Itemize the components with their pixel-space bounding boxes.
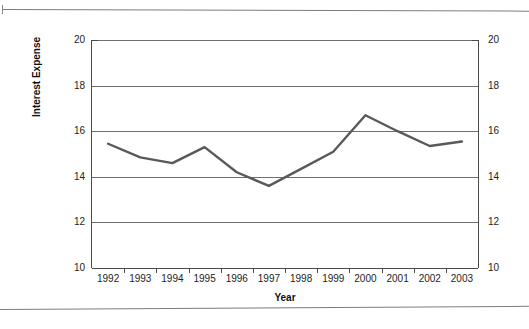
y-axis-left-tick-label-16: 16 — [74, 126, 85, 136]
x-axis-tick-2 — [156, 268, 157, 273]
x-axis-tick-6 — [285, 268, 286, 273]
x-axis-tick-label-2003: 2003 — [451, 273, 473, 284]
y-axis-right-line — [478, 40, 479, 268]
x-axis-tick-label-2000: 2000 — [354, 273, 376, 284]
x-axis-tick-11 — [446, 268, 447, 273]
x-axis-tick-9 — [382, 268, 383, 273]
x-axis-title: Year — [92, 292, 478, 303]
y-axis-left-tick-label-12: 12 — [74, 217, 85, 227]
x-axis-tick-7 — [317, 268, 318, 273]
x-axis-tick-4 — [221, 268, 222, 273]
series-interest-expense — [92, 40, 478, 268]
x-axis-tick-1 — [124, 268, 125, 273]
plot-area: 1010121214141616181820201992199319941995… — [92, 40, 478, 268]
y-axis-right-tick-label-10: 10 — [488, 263, 499, 273]
y-axis-right-tick-label-14: 14 — [488, 172, 499, 182]
y-axis-left-tick-label-14: 14 — [74, 172, 85, 182]
x-axis-tick-label-2002: 2002 — [419, 273, 441, 284]
series-line — [108, 115, 462, 186]
y-axis-right-tick-label-20: 20 — [488, 35, 499, 45]
x-axis-tick-label-1994: 1994 — [161, 273, 183, 284]
x-axis-tick-8 — [349, 268, 350, 273]
x-axis-tick-label-1999: 1999 — [322, 273, 344, 284]
y-axis-right-tick-label-18: 18 — [488, 81, 499, 91]
y-axis-right-tick-label-12: 12 — [488, 217, 499, 227]
y-axis-left-tick-label-10: 10 — [74, 263, 85, 273]
x-axis-tick-label-1998: 1998 — [290, 273, 312, 284]
x-axis-tick-label-1993: 1993 — [129, 273, 151, 284]
y-axis-left-tick-label-20: 20 — [74, 35, 85, 45]
x-axis-tick-label-1995: 1995 — [193, 273, 215, 284]
y-axis-title-text: Interest Expense — [31, 103, 42, 117]
y-axis-title: Interest Expense — [31, 89, 42, 103]
line-chart: Interest Expense 10101212141416161818202… — [0, 0, 529, 329]
y-axis-left-tick-label-18: 18 — [74, 81, 85, 91]
x-axis-tick-label-2001: 2001 — [386, 273, 408, 284]
x-axis-tick-3 — [189, 268, 190, 273]
x-axis-tick-label-1992: 1992 — [97, 273, 119, 284]
scanned-page: Interest Expense 10101212141416161818202… — [0, 0, 529, 329]
x-axis-tick-5 — [253, 268, 254, 273]
x-axis-tick-label-1997: 1997 — [258, 273, 280, 284]
y-axis-right-tick-label-16: 16 — [488, 126, 499, 136]
x-axis-tick-10 — [414, 268, 415, 273]
x-axis-tick-label-1996: 1996 — [226, 273, 248, 284]
